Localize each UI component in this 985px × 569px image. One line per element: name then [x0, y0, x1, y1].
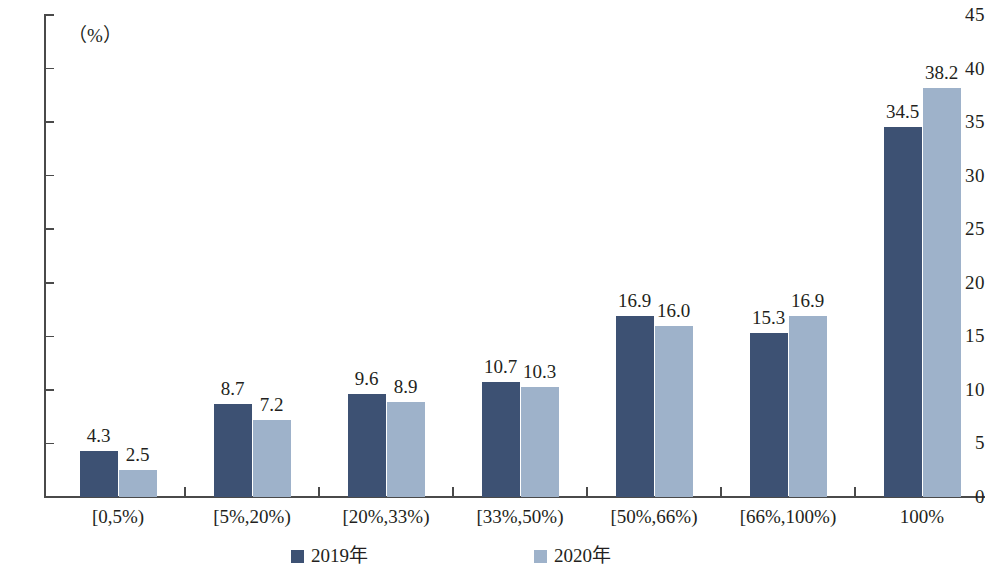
bar-0-6 — [884, 127, 922, 497]
category-label: [5%,20%) — [185, 507, 319, 527]
bar-0-4 — [616, 316, 654, 497]
bar-value-label: 10.3 — [509, 362, 571, 381]
bar-value-label: 34.5 — [872, 102, 934, 121]
category-label: 100% — [855, 507, 985, 527]
bar-0-2 — [348, 394, 386, 497]
legend-swatch-icon — [534, 550, 547, 563]
bar-value-label: 7.2 — [241, 395, 303, 414]
bar-1-6 — [923, 88, 961, 497]
category-label: [20%,33%) — [319, 507, 453, 527]
legend-label: 2019年 — [311, 546, 368, 566]
bar-value-label: 2.5 — [107, 445, 169, 464]
bar-chart: （%） 051015202530354045 4.32.58.77.29.68.… — [0, 0, 985, 569]
legend-item-2020年[interactable]: 2020年 — [534, 544, 611, 568]
bar-0-3 — [482, 382, 520, 497]
bar-value-label: 8.9 — [375, 377, 437, 396]
bar-1-4 — [655, 326, 693, 497]
bar-0-1 — [214, 404, 252, 497]
legend-swatch-icon — [291, 550, 304, 563]
category-label: [50%,66%) — [587, 507, 721, 527]
bar-value-label: 38.2 — [911, 63, 973, 82]
chart-legend: 2019年2020年 — [0, 544, 985, 568]
bar-0-5 — [750, 333, 788, 497]
bar-1-3 — [521, 387, 559, 497]
plot-area — [44, 15, 985, 497]
bar-1-1 — [253, 420, 291, 497]
bar-1-0 — [119, 470, 157, 497]
category-label: [66%,100%) — [721, 507, 855, 527]
bar-1-5 — [789, 316, 827, 497]
category-label: [0,5%) — [51, 507, 185, 527]
bar-value-label: 16.0 — [643, 301, 705, 320]
bar-value-label: 16.9 — [777, 291, 839, 310]
legend-label: 2020年 — [554, 546, 611, 566]
bar-1-2 — [387, 402, 425, 497]
bar-value-label: 4.3 — [68, 426, 130, 445]
legend-item-2019年[interactable]: 2019年 — [291, 544, 368, 568]
category-label: [33%,50%) — [453, 507, 587, 527]
